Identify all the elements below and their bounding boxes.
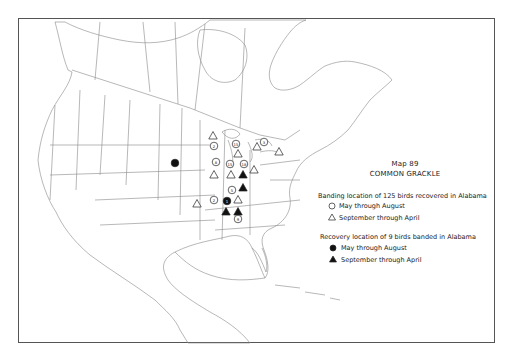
us-canada-border	[72, 70, 300, 140]
open-circle-marker: 8	[212, 158, 220, 166]
banding-legend-header: Banding location of 125 birds recovered …	[318, 192, 487, 200]
gulf-coast	[175, 252, 265, 280]
north-america-map: 2153815185219	[0, 0, 513, 358]
map-number: Map 89	[360, 160, 450, 168]
legend-label: May through August	[341, 244, 407, 252]
open-triangle-marker	[209, 132, 217, 140]
filled-circle-marker: 1	[223, 197, 231, 205]
open-triangle-marker	[234, 196, 242, 204]
legend-banding-summer: May through August	[339, 202, 405, 210]
filled-circle-symbol	[330, 245, 336, 251]
open-circle-marker: 9	[234, 215, 242, 223]
open-circle-marker: 2	[210, 196, 218, 204]
open-circle-symbol	[329, 203, 335, 209]
filled-triangle-marker	[239, 184, 247, 192]
caribbean	[275, 285, 340, 300]
marker-count: 18	[242, 162, 247, 167]
marker-count: 15	[228, 162, 233, 167]
open-circle-marker: 15	[232, 140, 240, 148]
legend-label: September through April	[339, 214, 419, 222]
open-circle-marker: 5	[228, 186, 236, 194]
open-triangle-marker	[227, 171, 235, 179]
filled-triangle-symbol	[330, 256, 337, 262]
open-triangle-marker	[210, 171, 218, 179]
legend-label: September through April	[341, 256, 421, 264]
open-circle-marker: 3	[260, 138, 268, 146]
filled-triangle-marker	[234, 208, 242, 216]
filled-circle-marker	[171, 159, 179, 167]
open-triangle-marker	[253, 143, 261, 151]
open-triangle-marker	[250, 166, 258, 174]
open-triangle-symbol	[329, 214, 336, 220]
open-circle-marker: 18	[240, 160, 248, 168]
marker-count: 15	[234, 142, 239, 147]
legend-recovery-winter: September through April	[341, 256, 421, 264]
legend-label: May through August	[339, 202, 405, 210]
legend-recovery-summer: May through August	[341, 244, 407, 252]
open-circle-marker: 15	[226, 160, 234, 168]
open-circle-marker: 2	[210, 142, 218, 150]
map-species-title: COMMON GRACKLE	[360, 170, 450, 178]
hudson-bay	[198, 30, 247, 83]
coastline	[38, 20, 392, 343]
filled-triangle-marker	[239, 171, 247, 179]
legend-banding-winter: September through April	[339, 214, 419, 222]
recovery-legend-header: Recovery location of 9 birds banded in A…	[320, 233, 476, 241]
open-triangle-marker	[234, 150, 242, 158]
